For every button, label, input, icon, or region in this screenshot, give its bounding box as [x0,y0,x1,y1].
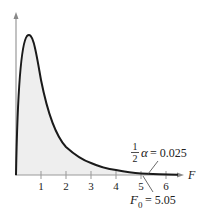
alpha-annotation: 1 2 α = 0.025 [131,141,187,174]
f0-annotation: F 0 = 5.05 [129,176,176,210]
tick-label-3: 3 [88,180,94,192]
f-distribution-chart: 1 2 3 4 5 6 F 1 2 α = 0.025 F 0 = 5.05 [0,0,206,223]
x-axis-arrow-icon [177,173,184,178]
y-axis-arrow-icon [14,12,19,19]
tick-label-4: 4 [113,180,119,192]
tick-label-1: 1 [38,180,44,192]
f0-pointer-line [143,176,153,192]
svg-text:= 0.025: = 0.025 [150,146,187,160]
svg-text:0: 0 [138,200,143,210]
tick-label-5: 5 [138,180,144,192]
tick-label-6: 6 [163,180,169,192]
svg-text:1: 1 [133,141,138,152]
alpha-pointer-line [148,161,158,174]
svg-text:2: 2 [133,153,138,164]
x-axis-label: F [187,168,196,182]
svg-text:= 5.05: = 5.05 [145,193,176,207]
svg-text:α: α [141,145,149,160]
tick-label-2: 2 [63,180,69,192]
